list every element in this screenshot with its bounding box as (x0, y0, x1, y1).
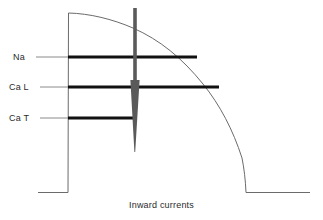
current-bar-cal (68, 86, 219, 89)
current-bar-cat (68, 117, 133, 120)
current-bar-na (68, 56, 197, 59)
label-ca-l: Ca L (9, 82, 29, 92)
label-na: Na (13, 52, 25, 62)
label-ca-t: Ca T (9, 113, 29, 123)
action-potential-diagram (0, 0, 323, 220)
figure-caption: Inward currents (0, 200, 323, 210)
downward-arrow-icon (130, 8, 139, 152)
inward-currents-figure: Na Ca L Ca T Inward currents (0, 0, 323, 220)
action-potential-trace (38, 13, 310, 193)
